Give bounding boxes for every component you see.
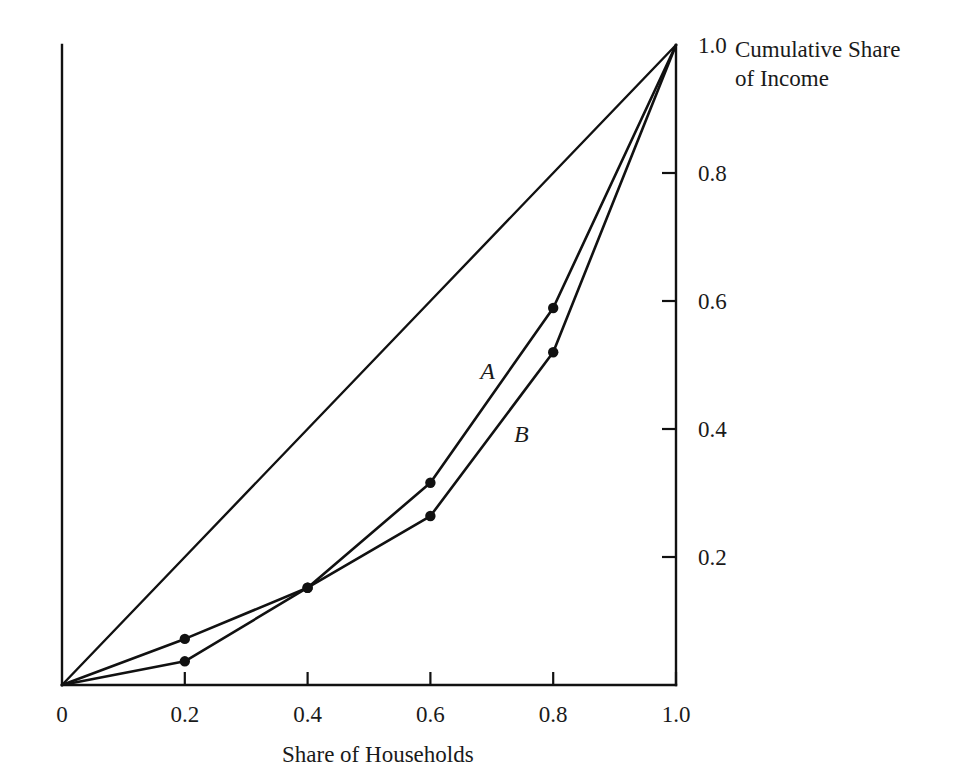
data-point-markers: [180, 303, 559, 667]
data-point-marker: [425, 478, 435, 488]
x-axis-title: Share of Households: [282, 740, 474, 769]
chart-canvas: [0, 0, 953, 781]
data-point-marker: [425, 511, 435, 521]
x-tick-label: 0.6: [416, 703, 445, 726]
y-tick-label: 1.0: [698, 34, 727, 57]
x-tick-label: 0.4: [293, 703, 322, 726]
data-point-marker: [548, 347, 558, 357]
y-tick-label: 0.2: [698, 546, 727, 569]
lorenz-curve-chart: Cumulative Share of Income Share of Hous…: [0, 0, 953, 781]
data-point-marker: [548, 303, 558, 313]
curve-label-b: B: [514, 422, 529, 446]
y-tick-label: 0.8: [698, 162, 727, 185]
series-line-line-of-equality: [62, 45, 676, 685]
x-tick-label: 0.2: [170, 703, 199, 726]
data-point-marker: [302, 583, 312, 593]
x-axis-ticks: [185, 672, 676, 685]
y-axis-title: Cumulative Share of Income: [735, 35, 900, 94]
data-point-marker: [180, 656, 190, 666]
y-tick-label: 0.6: [698, 290, 727, 313]
data-point-marker: [180, 634, 190, 644]
x-tick-label: 0: [56, 703, 68, 726]
y-axis-ticks: [662, 173, 676, 557]
series-lines: [62, 45, 676, 685]
y-tick-label: 0.4: [698, 418, 727, 441]
x-tick-label: 0.8: [539, 703, 568, 726]
x-tick-label: 1.0: [662, 703, 691, 726]
curve-label-a: A: [480, 359, 495, 383]
